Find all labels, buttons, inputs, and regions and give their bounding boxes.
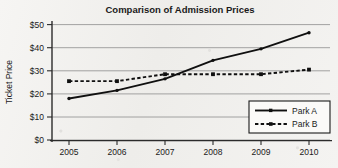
x-tick-label-2008: 2008: [204, 147, 223, 157]
series-park-a: [67, 31, 310, 100]
data-point: [115, 79, 119, 83]
legend-box: [249, 101, 330, 133]
data-point: [67, 79, 71, 83]
x-tick-label-2006: 2006: [108, 147, 127, 157]
data-point: [307, 31, 310, 34]
line-chart: Comparison of Admission Prices $50 $40: [0, 0, 338, 168]
data-point: [211, 72, 215, 76]
x-tick-label-2009: 2009: [252, 147, 271, 157]
data-point: [211, 59, 214, 62]
x-tick-label-2005: 2005: [60, 147, 79, 157]
y-tick-label-50: $50: [30, 20, 44, 30]
y-tick-label-20: $20: [30, 89, 44, 99]
data-point: [163, 72, 167, 76]
legend-marker-park-b: [269, 122, 273, 126]
data-point: [307, 68, 311, 72]
chart-legend[interactable]: Park A Park B: [249, 101, 330, 133]
x-tick-label-2010: 2010: [300, 147, 319, 157]
y-tick-labels: $50 $40 $30 $20 $10 $0: [30, 20, 44, 145]
y-tick-label-0: $0: [35, 135, 45, 145]
legend-marker-park-a: [269, 109, 272, 112]
series-park-b-line: [69, 70, 309, 82]
data-point: [259, 72, 263, 76]
series-park-a-line: [69, 33, 309, 99]
legend-label-park-a: Park A: [292, 106, 317, 116]
y-tick-label-30: $30: [30, 66, 44, 76]
chart-canvas: Comparison of Admission Prices $50 $40: [0, 0, 338, 168]
y-tick-marks: [47, 25, 52, 140]
data-point: [259, 47, 262, 50]
series-park-a-markers: [67, 31, 310, 100]
legend-label-park-b: Park B: [292, 119, 318, 129]
y-axis-label: Ticket Price: [4, 60, 14, 104]
data-point: [67, 97, 70, 100]
data-point: [115, 89, 118, 92]
x-tick-labels: 2005 2006 2007 2008 2009 2010: [60, 147, 319, 157]
y-tick-label-10: $10: [30, 112, 44, 122]
y-tick-label-40: $40: [30, 43, 44, 53]
x-tick-label-2007: 2007: [156, 147, 175, 157]
chart-title: Comparison of Admission Prices: [105, 4, 254, 15]
data-point: [163, 77, 166, 80]
